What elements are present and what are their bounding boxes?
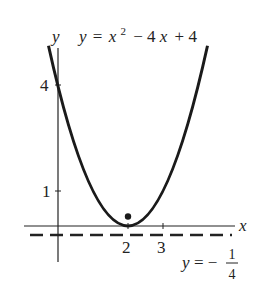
x-axis-label: x: [238, 216, 247, 235]
parabola-chart: y x y = x 2 − 4 x + 4 4 1 2 3 y = − 1 4: [0, 0, 257, 293]
directrix-label: y = − 1 4: [180, 247, 238, 282]
svg-text:4: 4: [229, 267, 236, 282]
equation-label: y = x 2 − 4 x + 4: [77, 20, 197, 46]
svg-text:= −: = −: [194, 253, 217, 272]
focus-point: [125, 213, 131, 219]
y-tick-label-4: 4: [40, 76, 49, 95]
x-tick-label-3: 3: [157, 238, 166, 257]
y-axis-label: y: [50, 27, 60, 46]
svg-text:y: y: [180, 253, 190, 272]
parabola-curve: [49, 46, 208, 226]
svg-text:1: 1: [229, 247, 236, 262]
x-tick-label-2: 2: [122, 238, 131, 257]
y-tick-label-1: 1: [42, 182, 51, 201]
